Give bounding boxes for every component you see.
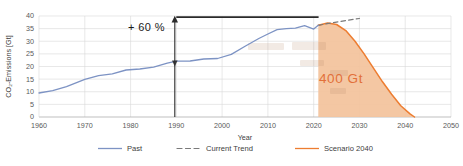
- legend-label-scenario-2040: Scenario 2040: [324, 144, 373, 153]
- legend-label-current-trend: Current Trend: [206, 144, 253, 153]
- y-tick-labels: 0 5 10 15 20 25 30 35 40: [26, 11, 34, 121]
- x-tick-2010: 2010: [260, 121, 276, 130]
- x-tick-2040: 2040: [397, 121, 413, 130]
- legend-label-past: Past: [127, 144, 143, 153]
- y-tick-35: 35: [26, 24, 34, 33]
- co2-emissions-chart: + 60 % 400 Gt 0 5 10 15 20 25 30 35 40 1…: [0, 0, 463, 166]
- x-axis-title: Year: [238, 133, 253, 142]
- y-tick-10: 10: [26, 87, 34, 96]
- chart-legend: Past Current Trend Scenario 2040: [98, 144, 373, 153]
- legend-item-current-trend[interactable]: Current Trend: [177, 144, 253, 153]
- x-tick-2020: 2020: [306, 121, 322, 130]
- x-tick-1960: 1960: [31, 121, 47, 130]
- chart-svg: + 60 % 400 Gt 0 5 10 15 20 25 30 35 40 1…: [0, 0, 463, 166]
- legend-item-past[interactable]: Past: [98, 144, 143, 153]
- y-tick-30: 30: [26, 37, 34, 46]
- x-tick-2000: 2000: [214, 121, 230, 130]
- y-tick-5: 5: [30, 100, 34, 109]
- cumulative-budget-label: 400 Gt: [319, 71, 363, 86]
- y-tick-20: 20: [26, 62, 34, 71]
- y-axis-title: CO₂-Emissions [Gt]: [4, 35, 13, 97]
- x-tick-2050: 2050: [443, 121, 459, 130]
- y-tick-40: 40: [26, 11, 34, 20]
- y-tick-15: 15: [26, 75, 34, 84]
- x-tick-labels: 1960 1970 1980 1990 2000 2010 2020 2030 …: [31, 121, 459, 130]
- y-tick-0: 0: [30, 112, 34, 121]
- increase-percent-label: + 60 %: [128, 21, 165, 33]
- y-tick-25: 25: [26, 49, 34, 58]
- x-tick-1990: 1990: [168, 121, 184, 130]
- x-tick-2030: 2030: [351, 121, 367, 130]
- x-tick-1980: 1980: [123, 121, 139, 130]
- legend-item-scenario-2040[interactable]: Scenario 2040: [295, 144, 373, 153]
- x-tick-1970: 1970: [77, 121, 93, 130]
